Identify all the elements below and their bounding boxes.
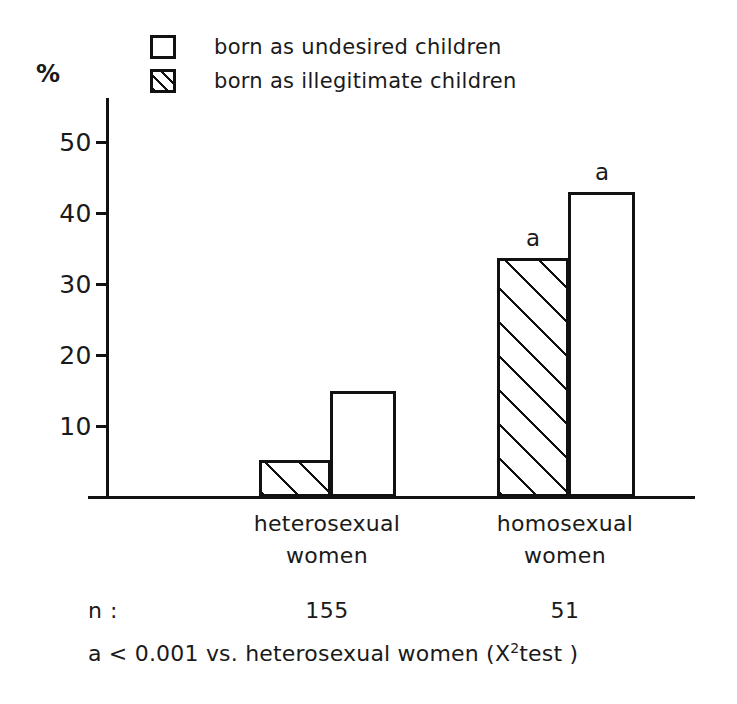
footnote: a < 0.001 vs. heterosexual women (X2test…: [88, 640, 578, 666]
bar-homosexual-undesired: [568, 192, 635, 497]
y-tick-label-20: 20: [38, 341, 92, 370]
y-tick-label-40: 40: [38, 199, 92, 228]
bar-annotation-homosexual-undesired: a: [595, 159, 609, 185]
bar-chart-figure: born as undesired children born as illeg…: [0, 0, 737, 704]
bar-annotation-homosexual-illegitimate: a: [526, 225, 540, 251]
bar-heterosexual-undesired: [330, 391, 396, 497]
category-label-homosexual-line1: homosexual: [497, 508, 633, 540]
footnote-superscript: 2: [510, 640, 519, 656]
y-axis-line: [106, 98, 109, 499]
category-label-heterosexual-line2: women: [254, 540, 400, 572]
y-tick-mark-20: [96, 354, 108, 357]
y-tick-mark-10: [96, 425, 108, 428]
category-label-homosexual-line2: women: [497, 540, 633, 572]
footnote-suffix: test ): [519, 641, 578, 666]
y-tick-mark-30: [96, 283, 108, 286]
y-tick-label-50: 50: [38, 128, 92, 157]
y-tick-mark-40: [96, 212, 108, 215]
category-label-heterosexual: heterosexual women: [254, 508, 400, 572]
sample-size-homosexual: 51: [551, 598, 580, 623]
bar-homosexual-illegitimate: [497, 258, 569, 497]
sample-size-key: n :: [88, 598, 118, 623]
y-tick-label-30: 30: [38, 270, 92, 299]
sample-size-heterosexual: 155: [305, 598, 349, 623]
sample-size-row: n : 155 51: [0, 598, 737, 632]
y-tick-label-10: 10: [38, 412, 92, 441]
category-label-homosexual: homosexual women: [497, 508, 633, 572]
y-axis-unit-label: %: [36, 60, 60, 88]
bar-heterosexual-illegitimate: [259, 460, 331, 497]
y-tick-mark-50: [96, 141, 108, 144]
footnote-prefix: a < 0.001 vs. heterosexual women (X: [88, 641, 510, 666]
category-label-heterosexual-line1: heterosexual: [254, 508, 400, 540]
